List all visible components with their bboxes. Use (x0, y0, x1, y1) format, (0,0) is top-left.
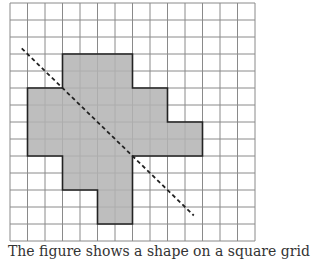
grid-figure (0, 0, 262, 244)
caption-text: The figure shows a shape on a square gri… (8, 244, 310, 258)
